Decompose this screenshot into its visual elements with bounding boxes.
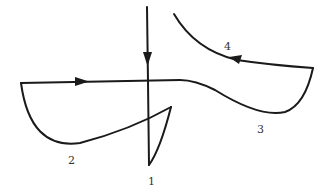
label-3: 3 — [257, 123, 264, 136]
label-2: 2 — [68, 154, 75, 167]
arrow-right-icon — [75, 77, 89, 86]
segment-horizontal — [21, 68, 313, 113]
segment-4 — [174, 14, 313, 68]
arrow-down-icon — [143, 52, 152, 66]
label-4: 4 — [224, 40, 231, 53]
diagram-canvas: 1 2 3 4 — [0, 0, 329, 193]
segment-vertical — [147, 7, 149, 165]
label-1: 1 — [148, 175, 155, 188]
arrow-left-icon — [229, 55, 242, 64]
